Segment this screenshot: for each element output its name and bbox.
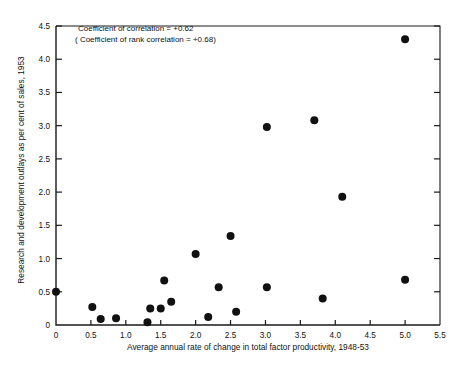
y-tick-label: 2.0 — [39, 188, 51, 197]
data-point — [143, 318, 151, 326]
data-point — [319, 294, 327, 302]
x-tick-label: 5.5 — [434, 331, 446, 340]
annotation-rank-correlation: ( Coefficient of rank correlation = +0.6… — [75, 35, 216, 44]
y-tick-label: 2.5 — [39, 155, 51, 164]
data-point — [167, 298, 175, 306]
x-tick-label: 3.0 — [260, 331, 272, 340]
x-tick-label: 1.0 — [120, 331, 132, 340]
data-point — [112, 314, 120, 322]
y-tick-label: 0.5 — [39, 288, 51, 297]
scatter-plot-figure: 00.51.01.52.02.53.03.54.04.55.05.5 00.51… — [0, 0, 465, 368]
x-axis-title: Average annual rate of change in total f… — [127, 342, 369, 352]
x-tick-label: 4.5 — [364, 331, 376, 340]
data-point — [215, 283, 223, 291]
chart-svg: 00.51.01.52.02.53.03.54.04.55.05.5 00.51… — [0, 0, 465, 368]
x-tick-label: 2.5 — [225, 331, 237, 340]
data-point — [157, 304, 165, 312]
data-point — [52, 288, 60, 296]
y-tick-label: 1.5 — [39, 221, 51, 230]
x-tick-label: 3.5 — [295, 331, 307, 340]
x-tick-label: 0 — [54, 331, 59, 340]
y-tick-label: 0 — [45, 321, 50, 330]
x-tick-label: 1.5 — [155, 331, 167, 340]
data-point — [192, 250, 200, 258]
y-tick-label: 3.5 — [39, 88, 51, 97]
y-tick-label: 4.5 — [39, 22, 51, 31]
x-tick-label: 2.0 — [190, 331, 202, 340]
data-point — [401, 276, 409, 284]
x-tick-label: 4.0 — [330, 331, 342, 340]
annotation-correlation: Coefficient of correlation = +0.62 — [78, 24, 194, 33]
data-point — [310, 116, 318, 124]
data-point — [338, 193, 346, 201]
data-point — [88, 303, 96, 311]
y-tick-label: 4.0 — [39, 55, 51, 64]
data-point — [160, 276, 168, 284]
data-point — [204, 313, 212, 321]
data-point — [401, 35, 409, 43]
data-point — [232, 308, 240, 316]
y-axis-title: Research and development outlays as per … — [16, 56, 26, 284]
x-tick-label: 0.5 — [85, 331, 97, 340]
x-tick-label: 5.0 — [399, 331, 411, 340]
data-point — [227, 232, 235, 240]
y-tick-label: 3.0 — [39, 122, 51, 131]
data-point — [263, 283, 271, 291]
data-point — [146, 304, 154, 312]
data-point — [263, 123, 271, 131]
data-point — [97, 315, 105, 323]
y-tick-label: 1.0 — [39, 255, 51, 264]
